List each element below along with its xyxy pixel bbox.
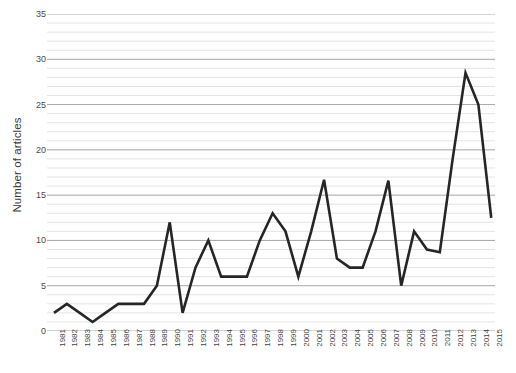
x-tick-label: 2000 [302,329,311,347]
y-tick-label: 30 [36,54,46,64]
y-axis-title-text: Number of articles [11,117,23,212]
x-tick-label: 1983 [83,329,92,347]
data-series-line [54,73,491,322]
x-tick-label: 2006 [379,329,388,347]
minor-gridlines [47,23,495,322]
x-tick-label: 1993 [212,329,221,347]
x-tick-label: 1986 [122,329,131,347]
x-tick-label: 2009 [418,329,427,347]
y-tick-label: 25 [36,100,46,110]
x-tick-label: 2007 [392,329,401,347]
x-tick-label: 1989 [160,329,169,347]
x-tick-label: 1998 [276,329,285,347]
y-tick-label: 10 [36,235,46,245]
x-tick-label: 1997 [263,329,272,347]
x-tick-label: 2011 [443,329,452,346]
x-tick-label: 1984 [96,329,105,347]
major-gridlines [47,14,495,331]
x-tick-label: 2005 [366,329,375,347]
x-tick-label: 1987 [135,329,144,347]
y-tick-label: 0 [41,326,46,336]
y-tick-label: 5 [41,281,46,291]
plot-area [47,14,495,331]
x-tick-label: 1991 [186,329,195,347]
x-tick-label: 2015 [495,329,504,347]
x-tick-label: 2014 [482,329,491,347]
x-tick-label: 2010 [430,329,439,347]
y-tick-label: 35 [36,9,46,19]
x-tick-label: 1994 [225,329,234,347]
y-axis-tick-labels: 05101520253035 [24,0,46,340]
x-tick-label: 1981 [58,329,67,347]
x-axis-tick-labels: 1981198219831984198519861987198819891990… [47,327,495,373]
x-tick-label: 2008 [405,329,414,347]
x-tick-label: 2013 [469,329,478,347]
line-chart: Number of articles 05101520253035 198119… [0,0,516,373]
x-tick-label: 1985 [109,329,118,347]
x-tick-label: 2004 [353,329,362,347]
plot-svg [47,14,495,331]
x-tick-label: 1996 [250,329,259,347]
y-tick-label: 20 [36,145,46,155]
x-tick-label: 2002 [328,329,337,347]
x-tick-label: 2012 [456,329,465,347]
x-tick-label: 1990 [173,329,182,347]
x-tick-label: 1982 [70,329,79,347]
x-tick-label: 1995 [238,329,247,347]
x-tick-label: 1999 [289,329,298,347]
x-tick-label: 2001 [315,329,324,347]
x-tick-label: 2003 [340,329,349,347]
x-tick-label: 1988 [148,329,157,347]
y-tick-label: 15 [36,190,46,200]
x-tick-label: 1992 [199,329,208,347]
